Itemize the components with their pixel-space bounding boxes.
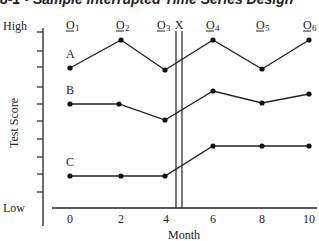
observation-labels: O1 O2 O3 O4 O5 O6: [66, 18, 317, 33]
interrupted-time-series-chart: High Low Test Score 0 2 4 6 8 10 Month O…: [0, 0, 319, 241]
x-axis-title: Month: [168, 228, 200, 241]
svg-text:6: 6: [312, 23, 317, 33]
x-tick-2: 2: [118, 212, 124, 226]
y-axis-title: Test Score: [7, 98, 21, 148]
series-c: C: [66, 143, 312, 178]
y-label-low: Low: [3, 201, 25, 215]
obs-label-4: O4: [206, 18, 220, 33]
svg-text:5: 5: [265, 23, 270, 33]
series-c-label: C: [66, 155, 74, 169]
treatment-label: X: [175, 18, 184, 32]
x-tick-0: 0: [67, 212, 73, 226]
svg-text:O: O: [116, 18, 125, 32]
svg-text:O: O: [157, 18, 166, 32]
x-tick-10: 10: [303, 212, 315, 226]
svg-text:3: 3: [166, 23, 171, 33]
obs-label-1: O1: [66, 18, 80, 33]
y-label-high: High: [3, 19, 27, 33]
svg-text:O: O: [303, 18, 312, 32]
x-tick-4: 4: [163, 212, 169, 226]
svg-text:O: O: [206, 18, 215, 32]
series-b: B: [66, 83, 312, 123]
x-tick-8: 8: [259, 212, 265, 226]
series-a-label: A: [66, 47, 75, 61]
svg-text:4: 4: [215, 23, 220, 33]
svg-text:2: 2: [125, 23, 130, 33]
y-axis-ticks: [37, 32, 43, 192]
svg-text:1: 1: [75, 23, 80, 33]
series-a: A: [66, 37, 312, 72]
obs-label-5: O5: [256, 18, 270, 33]
svg-text:O: O: [256, 18, 265, 32]
x-tick-labels: 0 2 4 6 8 10: [67, 212, 315, 226]
obs-label-3: O3: [157, 18, 171, 33]
obs-label-6: O6: [303, 18, 317, 33]
x-tick-6: 6: [210, 212, 216, 226]
obs-label-2: O2: [116, 18, 130, 33]
svg-text:O: O: [66, 18, 75, 32]
series-b-label: B: [66, 83, 74, 97]
